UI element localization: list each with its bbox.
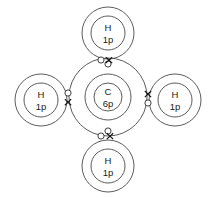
- hydrogen-top-nucleus-label: 1p: [103, 34, 114, 45]
- hydrogen-left-symbol: H: [38, 89, 45, 100]
- bond-right-carbon-electron-dot-icon: [145, 100, 151, 106]
- bond-left-carbon-electron-dot-icon: [65, 90, 71, 96]
- bond-right-hydrogen-electron-cross-icon: [145, 91, 151, 97]
- hydrogen-bottom-symbol: H: [105, 155, 112, 166]
- hydrogen-left-nucleus-label: 1p: [36, 101, 47, 112]
- hydrogen-atom-bottom: H 1p: [82, 140, 134, 192]
- carbon-outer-electron-lower-icon: [105, 128, 111, 134]
- bond-left-hydrogen-electron-cross-icon: [65, 99, 71, 105]
- bond-bottom-carbon-electron-dot-icon: [98, 133, 104, 139]
- carbon-symbol: C: [105, 86, 112, 97]
- molecule-svg-canvas: H 1p H 1p H 1p H 1p C: [0, 0, 213, 198]
- hydrogen-right-nucleus-label: 1p: [170, 101, 181, 112]
- bond-top-carbon-electron-dot-icon: [98, 57, 104, 63]
- methane-dot-cross-diagram: H 1p H 1p H 1p H 1p C: [0, 0, 213, 198]
- hydrogen-top-symbol: H: [105, 22, 112, 33]
- hydrogen-atom-top: H 1p: [82, 7, 134, 59]
- hydrogen-right-symbol: H: [172, 89, 179, 100]
- carbon-atom-center: C 6p: [69, 58, 147, 136]
- bonding-pair-left: [65, 90, 71, 105]
- hydrogen-atom-right: H 1p: [149, 74, 201, 126]
- carbon-nucleus-label: 6p: [103, 98, 114, 109]
- hydrogen-atom-left: H 1p: [15, 74, 67, 126]
- hydrogen-bottom-nucleus-label: 1p: [103, 167, 114, 178]
